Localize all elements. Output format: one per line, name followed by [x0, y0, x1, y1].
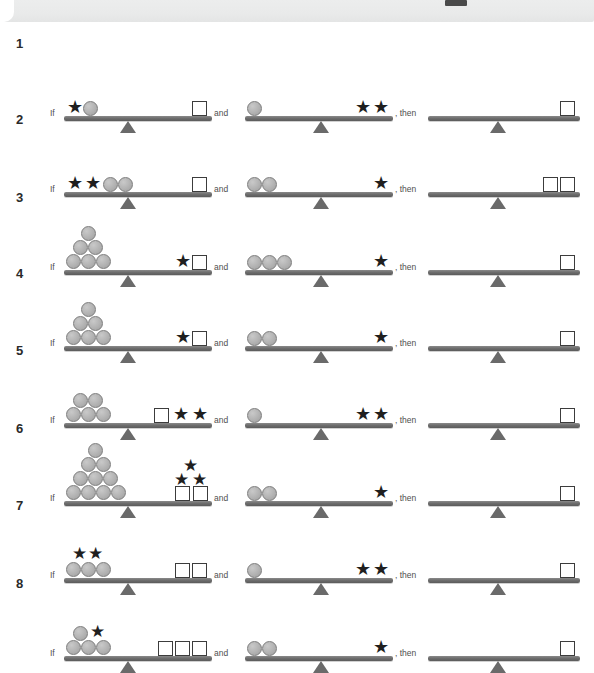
star-weight: ★ [182, 457, 199, 474]
row-number: 4 [16, 266, 23, 281]
puzzle-row: 8If★and★, then [0, 578, 594, 658]
star-weight: ★ [372, 483, 390, 501]
balance-scale [428, 38, 580, 118]
balance-scale: ★★ [64, 345, 212, 425]
square-weight [192, 177, 207, 192]
scale-fulcrum [120, 661, 136, 673]
balance-scale [428, 192, 580, 272]
circle-weight [81, 640, 96, 655]
circle-weight [66, 562, 81, 577]
circle-weight [96, 254, 111, 269]
circle-weight [81, 457, 96, 472]
circle-weight [88, 240, 103, 255]
balance-scale: ★ [245, 114, 393, 194]
square-weight [560, 331, 575, 346]
circle-weight [96, 562, 111, 577]
circle-weight [262, 331, 277, 346]
row-number: 5 [16, 343, 23, 358]
circle-weight [247, 331, 262, 346]
square-weight [175, 641, 190, 656]
star-weight: ★ [87, 545, 104, 562]
circle-weight [73, 471, 88, 486]
star-weight: ★ [84, 174, 102, 192]
row-number: 2 [16, 112, 23, 127]
circle-weight [247, 563, 262, 578]
star-weight: ★ [354, 560, 372, 578]
star-weight: ★ [191, 405, 209, 423]
circle-weight [81, 485, 96, 500]
circle-weight [73, 316, 88, 331]
circle-weight [103, 471, 118, 486]
circle-weight [66, 640, 81, 655]
connector-if: If [50, 648, 55, 658]
balance-scale [428, 345, 580, 425]
row-number: 1 [16, 36, 23, 51]
row-number: 7 [16, 498, 23, 513]
balance-scale [428, 500, 580, 580]
square-weight [543, 177, 558, 192]
star-weight: ★ [372, 560, 390, 578]
scale-fulcrum [313, 661, 329, 673]
balance-scale: ★ [64, 192, 212, 272]
circle-weight [81, 407, 96, 422]
row-number: 6 [16, 421, 23, 436]
circle-weight [103, 177, 118, 192]
balance-scale: ★ [64, 268, 212, 348]
circle-weight [96, 640, 111, 655]
square-weight [175, 563, 190, 578]
circle-weight [96, 330, 111, 345]
circle-weight [81, 330, 96, 345]
circle-weight [247, 408, 262, 423]
balance-scale: ★ [245, 192, 393, 272]
star-weight: ★ [372, 405, 390, 423]
puzzle-row: 6If★★★and★, then [0, 423, 594, 503]
circle-weight [262, 177, 277, 192]
square-weight [560, 408, 575, 423]
scale-fulcrum [490, 661, 506, 673]
circle-weight [247, 641, 262, 656]
puzzle-row: 1If★and★★, then [0, 38, 594, 118]
circle-weight [73, 240, 88, 255]
circle-weight [247, 486, 262, 501]
circle-weight [262, 641, 277, 656]
row-number: 3 [16, 190, 23, 205]
circle-weight [88, 316, 103, 331]
circle-weight [88, 393, 103, 408]
balance-scale: ★ [245, 423, 393, 503]
square-weight [560, 563, 575, 578]
balance-scale: ★ [64, 38, 212, 118]
circle-weight [81, 254, 96, 269]
circle-weight [88, 443, 103, 458]
puzzle-row: 5If★★and★★, then [0, 345, 594, 425]
circle-weight [73, 626, 88, 641]
balance-scale [428, 268, 580, 348]
balance-scale: ★★★ [64, 423, 212, 503]
circle-weight [96, 485, 111, 500]
circle-weight [66, 330, 81, 345]
balance-scale: ★ [245, 578, 393, 658]
puzzle-row: 7If★★and★★, then [0, 500, 594, 580]
square-weight [192, 641, 207, 656]
circle-weight [66, 407, 81, 422]
connector-and: and [214, 648, 228, 658]
star-weight: ★ [172, 405, 190, 423]
balance-scale: ★★ [245, 345, 393, 425]
circle-weight [81, 226, 96, 241]
balance-scale: ★★ [245, 500, 393, 580]
circle-weight [262, 486, 277, 501]
balance-scale [428, 423, 580, 503]
page-edge-mark-icon [445, 0, 467, 6]
circle-weight [81, 302, 96, 317]
circle-weight [81, 562, 96, 577]
puzzle-row: 2If★★and★, then [0, 114, 594, 194]
row-number: 8 [16, 576, 23, 591]
square-weight [192, 331, 207, 346]
circle-weight [96, 407, 111, 422]
star-weight: ★ [71, 545, 88, 562]
star-weight: ★ [372, 328, 390, 346]
square-weight [192, 563, 207, 578]
star-weight: ★ [372, 638, 390, 656]
square-weight [560, 641, 575, 656]
star-weight: ★ [372, 174, 390, 192]
star-weight: ★ [89, 623, 106, 640]
